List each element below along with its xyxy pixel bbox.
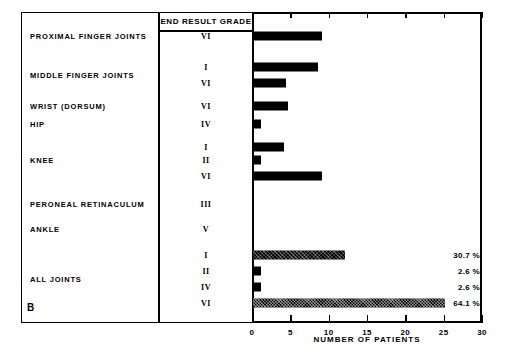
joint-label: HIP bbox=[30, 120, 45, 129]
bar bbox=[253, 102, 288, 111]
bar bbox=[253, 32, 322, 41]
bar bbox=[253, 79, 286, 88]
x-tick-bottom bbox=[444, 315, 445, 323]
x-tick-bottom bbox=[482, 315, 483, 323]
panel-letter: B bbox=[27, 302, 34, 313]
percentage-label: 2.6 % bbox=[432, 267, 480, 276]
joint-label: ANKLE bbox=[30, 225, 60, 234]
grade-label: II bbox=[160, 156, 252, 165]
x-tick-bottom bbox=[329, 315, 330, 323]
grade-label: VI bbox=[160, 102, 252, 111]
grade-label: IV bbox=[160, 283, 252, 292]
grade-label: II bbox=[160, 267, 252, 276]
grade-label: III bbox=[160, 200, 252, 209]
grade-label: I bbox=[160, 63, 252, 72]
joint-label: PROXIMAL FINGER JOINTS bbox=[30, 32, 147, 41]
grade-label: VI bbox=[160, 32, 252, 41]
joint-label: MIDDLE FINGER JOINTS bbox=[30, 71, 134, 80]
x-tick-top bbox=[444, 12, 445, 18]
x-tick-top bbox=[482, 12, 483, 18]
bar bbox=[253, 172, 322, 181]
percentage-label: 30.7 % bbox=[432, 251, 480, 260]
plot-area: 051015202530 bbox=[252, 12, 482, 323]
grade-label: V bbox=[160, 225, 252, 234]
bar bbox=[253, 143, 284, 152]
percentage-label: 64.1 % bbox=[432, 299, 480, 308]
figure-panel-b: END RESULT GRADE PROXIMAL FINGER JOINTSM… bbox=[0, 0, 512, 361]
x-tick-bottom bbox=[405, 315, 406, 323]
bar bbox=[253, 251, 345, 260]
bar bbox=[253, 63, 318, 72]
grade-label: I bbox=[160, 251, 252, 260]
x-axis-title: NUMBER OF PATIENTS bbox=[252, 335, 482, 344]
y-axis-line bbox=[252, 12, 254, 323]
column-divider bbox=[158, 12, 160, 323]
bar bbox=[253, 120, 261, 129]
bar bbox=[253, 299, 445, 308]
grade-label: I bbox=[160, 143, 252, 152]
grade-label: IV bbox=[160, 120, 252, 129]
joint-label: KNEE bbox=[30, 156, 54, 165]
joint-label: ALL JOINTS bbox=[30, 275, 82, 284]
bar bbox=[253, 156, 261, 165]
percentage-label: 2.6 % bbox=[432, 283, 480, 292]
grade-label: VI bbox=[160, 299, 252, 308]
grade-label: VI bbox=[160, 79, 252, 88]
x-tick-top bbox=[405, 12, 406, 18]
bar bbox=[253, 267, 261, 276]
x-tick-bottom bbox=[290, 315, 291, 323]
x-tick-top bbox=[252, 12, 253, 18]
bar bbox=[253, 283, 261, 292]
x-tick-top bbox=[290, 12, 291, 18]
joint-label: PERONEAL RETINACULUM bbox=[30, 200, 145, 209]
x-tick-bottom bbox=[252, 315, 253, 323]
grade-column-header: END RESULT GRADE bbox=[160, 13, 252, 30]
joint-label: WRIST (DORSUM) bbox=[30, 102, 106, 111]
grade-label: VI bbox=[160, 172, 252, 181]
plot-right-border bbox=[480, 12, 482, 323]
x-tick-bottom bbox=[367, 315, 368, 323]
x-tick-top bbox=[329, 12, 330, 18]
x-tick-top bbox=[367, 12, 368, 18]
